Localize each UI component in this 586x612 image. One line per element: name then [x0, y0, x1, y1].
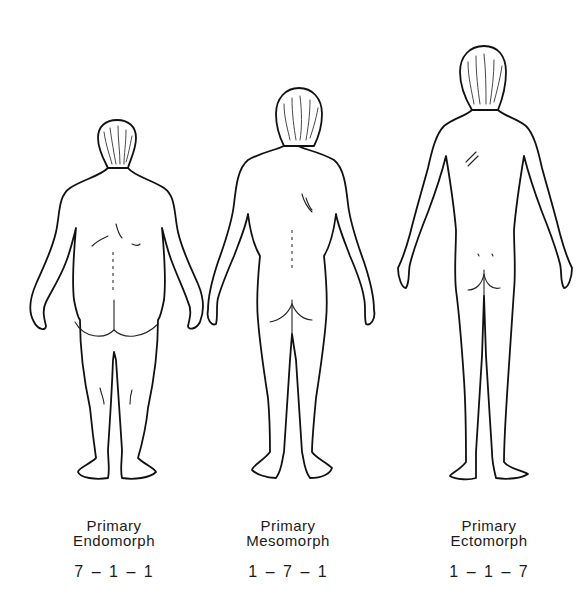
endomorph-figure: [30, 120, 202, 479]
ectomorph-head: [460, 46, 506, 110]
mesomorph-rating: 1 – 7 – 1: [208, 563, 368, 581]
mesomorph-figure: [208, 88, 375, 478]
somatotype-figures: [0, 0, 586, 500]
ectomorph-rating: 1 – 1 – 7: [409, 563, 569, 581]
endomorph-caption: Primary Endomorph 7 – 1 – 1: [34, 518, 194, 581]
mesomorph-caption: Primary Mesomorph 1 – 7 – 1: [208, 518, 368, 581]
mesomorph-label-primary: Primary: [208, 518, 368, 533]
endomorph-label-type: Endomorph: [34, 533, 194, 548]
ectomorph-label-primary: Primary: [409, 518, 569, 533]
ectomorph-figure: [398, 46, 572, 479]
ectomorph-label-type: Ectomorph: [409, 533, 569, 548]
mesomorph-head: [276, 88, 322, 146]
endomorph-label-primary: Primary: [34, 518, 194, 533]
ectomorph-caption: Primary Ectomorph 1 – 1 – 7: [409, 518, 569, 581]
mesomorph-body-outline: [208, 146, 375, 478]
ectomorph-body-outline: [398, 110, 572, 479]
endomorph-body-outline: [30, 154, 202, 479]
mesomorph-label-type: Mesomorph: [208, 533, 368, 548]
endomorph-rating: 7 – 1 – 1: [34, 563, 194, 581]
